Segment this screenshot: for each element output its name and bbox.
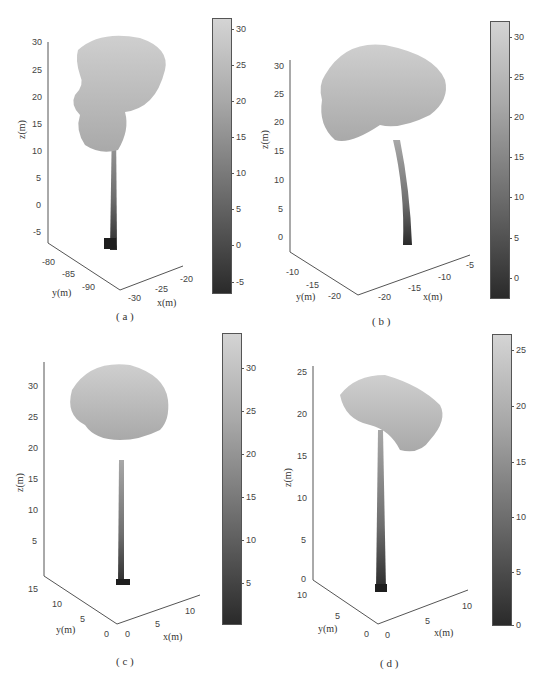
x-tick: 10 xyxy=(462,602,472,611)
colorbar xyxy=(492,334,512,626)
y-axis-label: y(m) xyxy=(296,291,315,302)
z-tick: 30 xyxy=(274,62,284,71)
x-tick: 5 xyxy=(425,617,430,626)
z-axis-label: z(m) xyxy=(282,468,293,487)
colorbar-tick: 20 xyxy=(236,97,246,106)
colorbar-tick: 25 xyxy=(236,61,246,70)
colorbar-tick: 0 xyxy=(516,621,521,630)
z-axis-label: z(m) xyxy=(14,473,25,492)
y-tick: 5 xyxy=(335,612,340,621)
panel-caption: ( b ) xyxy=(372,315,390,327)
colorbar-tick: 10 xyxy=(246,536,256,545)
colorbar xyxy=(490,21,510,299)
y-tick: -80 xyxy=(42,258,55,267)
x-tick: 10 xyxy=(185,607,195,616)
z-tick: 15 xyxy=(274,147,284,156)
z-tick: 5 xyxy=(301,536,306,545)
x-axis-label: x(m) xyxy=(163,631,182,642)
colorbar-tick: 15 xyxy=(236,133,246,142)
x-axis-label: x(m) xyxy=(157,297,176,308)
x-tick: 5 xyxy=(155,620,160,629)
z-tick: 0 xyxy=(278,233,283,242)
x-tick: -20 xyxy=(180,275,193,284)
panel-caption: ( d ) xyxy=(380,657,398,669)
colorbar-tick: 30 xyxy=(514,33,524,42)
colorbar-tick: -5 xyxy=(236,278,244,287)
z-tick: 10 xyxy=(274,176,284,185)
panel-c-tree-pointcloud xyxy=(70,364,168,585)
colorbar-tick: 5 xyxy=(236,205,241,214)
z-tick: 15 xyxy=(297,452,307,461)
z-tick: 15 xyxy=(32,120,42,129)
y-tick: -15 xyxy=(306,281,319,290)
z-tick: 0 xyxy=(36,201,41,210)
colorbar-tick: 0 xyxy=(236,241,241,250)
y-tick: -20 xyxy=(328,292,341,301)
y-tick: 10 xyxy=(52,600,62,609)
y-tick: -10 xyxy=(286,268,299,277)
y-tick: 0 xyxy=(104,630,109,639)
colorbar-tick: 10 xyxy=(236,169,246,178)
panel-caption: ( c ) xyxy=(116,655,134,667)
colorbar-tick: 25 xyxy=(514,73,524,82)
y-tick: -90 xyxy=(82,283,95,292)
panel-caption: ( a ) xyxy=(116,310,134,322)
panel-d-tree-pointcloud xyxy=(340,375,442,592)
z-tick: 25 xyxy=(32,66,42,75)
figure-graphics xyxy=(0,0,536,679)
y-tick: 5 xyxy=(80,615,85,624)
x-tick: -15 xyxy=(408,284,421,293)
colorbar-tick: 15 xyxy=(514,153,524,162)
x-tick: 0 xyxy=(385,631,390,640)
x-tick: -10 xyxy=(438,273,451,282)
z-tick: 10 xyxy=(297,494,307,503)
z-tick: 20 xyxy=(28,444,38,453)
colorbar-tick: 20 xyxy=(516,402,526,411)
colorbar-tick: 10 xyxy=(514,193,524,202)
x-tick: -5 xyxy=(466,261,474,270)
colorbar-tick: 20 xyxy=(514,113,524,122)
z-tick: -5 xyxy=(33,228,41,237)
z-tick: 30 xyxy=(32,38,42,47)
z-tick: 25 xyxy=(274,90,284,99)
z-tick: 20 xyxy=(32,93,42,102)
colorbar-tick: 25 xyxy=(516,346,526,355)
colorbar-tick: 15 xyxy=(516,458,526,467)
colorbar-tick: 0 xyxy=(514,274,519,283)
colorbar-tick: 30 xyxy=(236,25,246,34)
y-axis-label: y(m) xyxy=(52,287,71,298)
x-tick: -25 xyxy=(155,285,168,294)
z-tick: 15 xyxy=(28,475,38,484)
colorbar-tick: 25 xyxy=(246,407,256,416)
x-tick: 0 xyxy=(125,630,130,639)
z-tick: 25 xyxy=(28,413,38,422)
y-axis-label: y(m) xyxy=(56,624,75,635)
y-tick: -85 xyxy=(62,270,75,279)
panel-a-tree-pointcloud xyxy=(73,36,165,250)
colorbar-tick: 5 xyxy=(514,234,519,243)
z-tick: 20 xyxy=(297,410,307,419)
x-tick: -30 xyxy=(128,294,141,303)
z-tick: 10 xyxy=(32,147,42,156)
x-tick: -20 xyxy=(378,293,391,302)
panel-b-tree-pointcloud xyxy=(321,44,446,245)
colorbar-tick: 5 xyxy=(516,568,521,577)
y-tick: 10 xyxy=(297,591,307,600)
colorbar-tick: 15 xyxy=(246,493,256,502)
colorbar-tick: 20 xyxy=(246,450,256,459)
z-tick: 10 xyxy=(28,506,38,515)
colorbar-tick: 10 xyxy=(516,513,526,522)
z-tick: 25 xyxy=(297,368,307,377)
z-tick: 30 xyxy=(28,382,38,391)
x-axis-label: x(m) xyxy=(423,291,442,302)
colorbar-tick: 5 xyxy=(246,579,251,588)
y-tick: 0 xyxy=(364,630,369,639)
z-tick: 5 xyxy=(32,537,37,546)
z-axis-label: z(m) xyxy=(259,130,270,149)
z-tick: 0 xyxy=(301,575,306,584)
colorbar xyxy=(222,333,242,625)
x-axis-label: x(m) xyxy=(434,627,453,638)
z-axis-label: z(m) xyxy=(16,120,27,139)
z-tick: 20 xyxy=(274,118,284,127)
z-tick: 5 xyxy=(278,205,283,214)
